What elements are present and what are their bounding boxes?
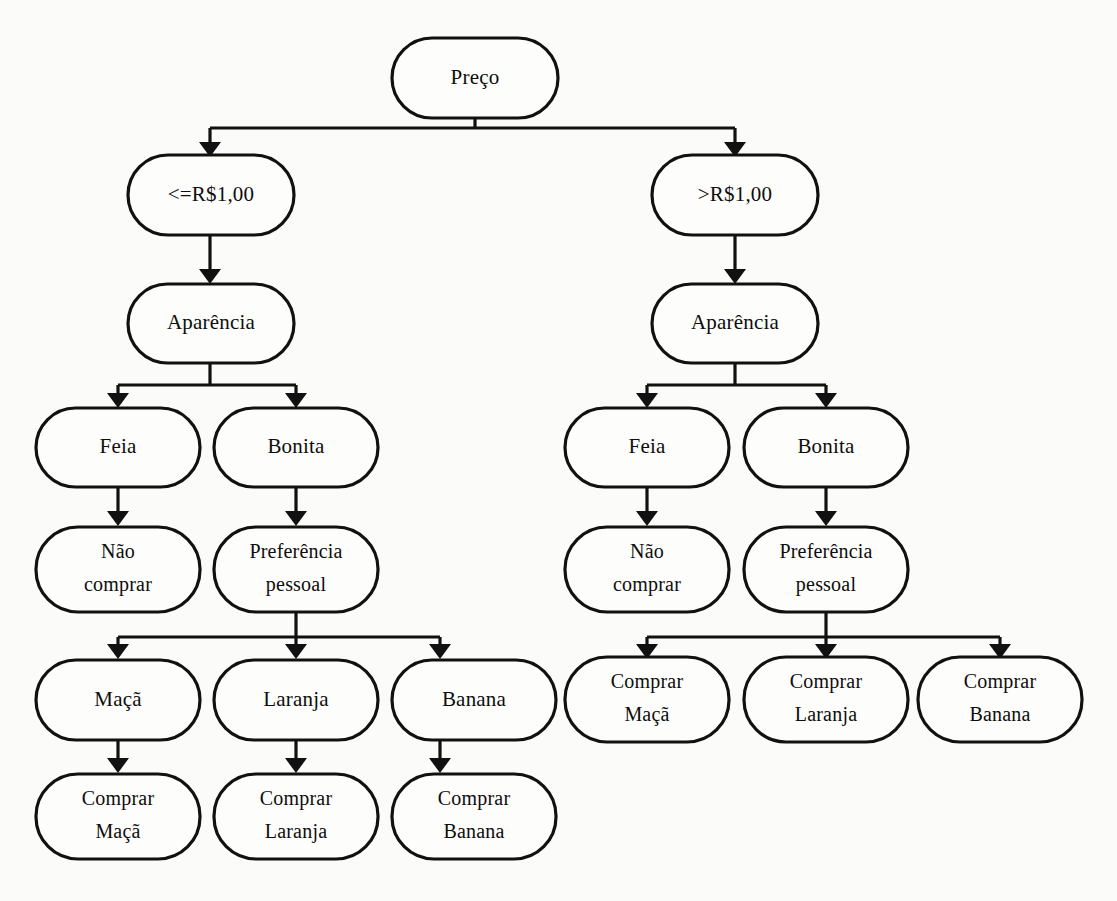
node-preco[interactable]: Preço (392, 38, 558, 118)
node-preferencia-right[interactable]: Preferência pessoal (744, 527, 908, 612)
node-banana-left-label: Banana (442, 687, 507, 711)
node-attribute-right-label: Aparência (691, 310, 780, 334)
node-comprar-banana-left[interactable]: Comprar Banana (392, 774, 556, 859)
node-bonita-right-label: Bonita (797, 434, 855, 458)
node-comprar-laranja-left-line1: Comprar (260, 787, 333, 810)
node-comprar-maca-right-line1: Comprar (611, 670, 684, 693)
node-nao-comprar-left-line2: comprar (84, 573, 152, 596)
arrow-head-icon (636, 393, 658, 408)
arrow-head-icon (285, 393, 307, 408)
arrow-head-icon (636, 511, 658, 526)
node-feia-left-label: Feia (100, 434, 137, 458)
node-preferencia-left[interactable]: Preferência pessoal (214, 527, 378, 612)
node-feia-right-label: Feia (629, 434, 666, 458)
node-preferencia-left-line1: Preferência (249, 540, 342, 562)
node-nao-comprar-left-line1: Não (101, 540, 135, 562)
arrow-head-icon (815, 511, 837, 526)
arrow-head-icon (285, 511, 307, 526)
node-banana-left[interactable]: Banana (392, 660, 556, 740)
node-layer: Preço <=R$1,00 >R$1,00 Aparência Aparênc… (36, 38, 1082, 859)
node-condition-left-label: <=R$1,00 (168, 182, 255, 206)
node-comprar-laranja-right[interactable]: Comprar Laranja (744, 657, 908, 742)
node-comprar-laranja-left[interactable]: Comprar Laranja (214, 774, 378, 859)
node-attribute-left-label: Aparência (167, 310, 256, 334)
node-comprar-maca-left-line2: Maçã (95, 820, 140, 843)
arrow-head-icon (429, 644, 451, 659)
node-nao-comprar-left[interactable]: Não comprar (36, 527, 200, 612)
node-comprar-banana-right[interactable]: Comprar Banana (918, 657, 1082, 742)
arrow-head-icon (429, 758, 451, 773)
node-comprar-laranja-right-line1: Comprar (790, 670, 863, 693)
arrow-head-icon (107, 511, 129, 526)
node-maca-left[interactable]: Maçã (36, 660, 200, 740)
node-preferencia-left-line2: pessoal (266, 573, 327, 596)
node-feia-right[interactable]: Feia (565, 408, 729, 487)
node-condition-right[interactable]: >R$1,00 (652, 155, 818, 235)
node-comprar-banana-left-line2: Banana (443, 820, 504, 842)
node-nao-comprar-right-line1: Não (630, 540, 664, 562)
node-comprar-laranja-right-line2: Laranja (795, 703, 857, 726)
node-condition-left[interactable]: <=R$1,00 (128, 155, 294, 235)
node-attribute-left[interactable]: Aparência (128, 284, 294, 363)
node-comprar-maca-left[interactable]: Comprar Maçã (36, 774, 200, 859)
node-maca-left-label: Maçã (94, 687, 142, 711)
node-comprar-laranja-left-line2: Laranja (265, 820, 327, 843)
arrow-head-icon (199, 269, 221, 284)
node-preferencia-right-line2: pessoal (796, 573, 857, 596)
decision-tree-diagram: Preço <=R$1,00 >R$1,00 Aparência Aparênc… (0, 0, 1117, 901)
node-nao-comprar-right-line2: comprar (613, 573, 681, 596)
arrow-head-icon (285, 644, 307, 659)
arrow-head-icon (815, 393, 837, 408)
arrow-head-icon (724, 269, 746, 284)
node-laranja-left[interactable]: Laranja (214, 660, 378, 740)
node-condition-right-label: >R$1,00 (698, 182, 773, 206)
node-comprar-maca-right[interactable]: Comprar Maçã (565, 657, 729, 742)
node-bonita-left[interactable]: Bonita (214, 408, 378, 487)
node-nao-comprar-right[interactable]: Não comprar (565, 527, 729, 612)
node-comprar-banana-right-line2: Banana (969, 703, 1030, 725)
node-laranja-left-label: Laranja (263, 687, 329, 711)
node-comprar-banana-left-line1: Comprar (438, 787, 511, 810)
node-comprar-maca-right-line2: Maçã (624, 703, 669, 726)
node-bonita-left-label: Bonita (267, 434, 325, 458)
node-bonita-right[interactable]: Bonita (744, 408, 908, 487)
arrow-head-icon (107, 758, 129, 773)
arrow-head-icon (285, 758, 307, 773)
node-preco-label: Preço (451, 65, 500, 89)
arrow-head-icon (107, 644, 129, 659)
node-preferencia-right-line1: Preferência (779, 540, 872, 562)
node-comprar-maca-left-line1: Comprar (82, 787, 155, 810)
node-feia-left[interactable]: Feia (36, 408, 200, 487)
node-attribute-right[interactable]: Aparência (652, 284, 818, 363)
arrow-head-icon (107, 393, 129, 408)
node-comprar-banana-right-line1: Comprar (964, 670, 1037, 693)
